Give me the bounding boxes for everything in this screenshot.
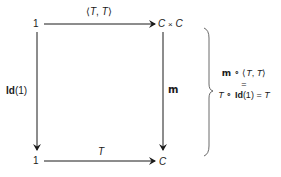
- equation-line-1: m ∘ ⟨T, T⟩: [212, 68, 276, 79]
- equation-line-2: =: [212, 79, 276, 90]
- left-arrow-label: Id(1): [6, 85, 27, 97]
- right-arrow-label: m: [168, 84, 178, 96]
- equation-block: m ∘ ⟨T, T⟩ = T ∘ Id(1) = T: [212, 68, 276, 101]
- node-bottom-right: C: [159, 156, 166, 168]
- top-arrow-label: ⟨T, T⟩: [86, 6, 112, 18]
- node-top-right: C × C: [158, 18, 183, 31]
- node-top-left: 1: [33, 18, 39, 30]
- node-bottom-left: 1: [33, 155, 39, 167]
- commutative-diagram: 1 C × C 1 C ⟨T, T⟩ Id(1) m T m ∘ ⟨T, T⟩ …: [0, 0, 281, 177]
- equation-line-3: T ∘ Id(1) = T: [212, 90, 276, 101]
- bottom-arrow-label: T: [98, 146, 104, 158]
